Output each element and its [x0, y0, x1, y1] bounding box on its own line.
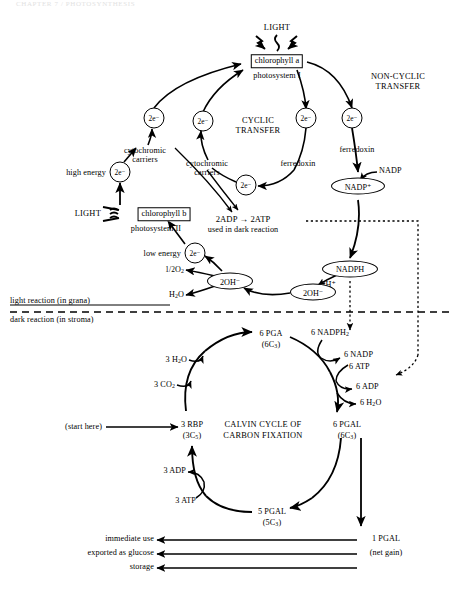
start-here-label: (start here) [65, 423, 102, 432]
rbp-formula: (3C5) [183, 432, 201, 441]
electron-circle-cyclic-mid-upper[interactable]: 2e⁻ [193, 111, 214, 132]
pgal1-net-gain-note: (net gain) [370, 549, 403, 558]
light-left-label: LIGHT [75, 210, 101, 219]
atp3-input-label: 3 ATP [175, 497, 196, 506]
nadp-output-label: 6 NADP [344, 351, 373, 360]
pgal6-formula: (6C3) [338, 432, 356, 441]
hydroxide-inner-oval[interactable]: 2OH⁻ [207, 273, 253, 290]
rbp-name: 3 RBP [181, 421, 203, 430]
pgal6-name: 6 PGAL [333, 421, 361, 430]
ferredoxin-noncyclic-label: ferredoxin [339, 146, 374, 155]
used-in-dark-reaction-label: used in dark reaction [208, 226, 279, 235]
atp-input-label: 6 ATP [349, 363, 370, 372]
nadph-oval[interactable]: NADPH [322, 261, 378, 278]
co2-sub: 2 [172, 383, 175, 389]
output-storage: storage [130, 563, 154, 572]
light-reaction-compartment-label: light reaction (in grana) [10, 297, 90, 306]
chlorophyll-b-box[interactable]: chlorophyll b [138, 207, 191, 221]
calvin-title-line1: CALVIN CYCLE OF [225, 421, 302, 430]
pga-name: 6 PGA [259, 330, 282, 339]
water-label: H2O [169, 291, 184, 300]
half-oxygen-sub: 2 [181, 268, 184, 274]
nadph2-text: 6 NADPH [311, 328, 346, 337]
cyclic-transfer-line1: CYCLIC [242, 117, 274, 126]
cyclic-transfer-line2: TRANSFER [236, 127, 281, 136]
pgal5-formula: (5C3) [263, 519, 281, 528]
output-immediate-use: immediate use [105, 535, 154, 544]
nadp-label: NADP [379, 167, 402, 176]
pgal5-formula-prefix: (5C [263, 518, 276, 527]
noncyclic-transfer-line1: NON-CYCLIC [371, 73, 425, 82]
h2o-tail: O [181, 355, 187, 364]
adp-atp-conversion: 2ADP → 2ATP [216, 215, 271, 224]
nadp-plus-oval[interactable]: NADP⁺ [331, 178, 385, 195]
pgal5-formula-suffix: ) [278, 518, 281, 527]
half-oxygen-label: 1/2O2 [165, 266, 184, 275]
photosystem-ii-label: photosystem II [131, 225, 181, 234]
hydroxide-outer-oval[interactable]: 2OH⁻ [290, 284, 336, 301]
photosynthesis-diagram: CHAPTER 7 / PHOTOSYNTHESIS [0, 0, 454, 599]
low-energy-label: low energy [144, 250, 181, 259]
pgal1-name: 1 PGAL [372, 535, 400, 544]
water-o: O [178, 290, 184, 299]
calvin-title-line2: CARBON FIXATION [223, 432, 302, 441]
pgal6-formula-prefix: (6C [338, 431, 351, 440]
adp-output-label: 6 ADP [356, 383, 379, 392]
h2o-output-label: 6 H2O [360, 399, 381, 408]
adp3-output-label: 3 ADP [163, 467, 186, 476]
pgal6-formula-suffix: ) [353, 431, 356, 440]
co2-input-label: 3 CO2 [154, 381, 175, 390]
output-exported-glucose: exported as glucose [88, 549, 154, 558]
nadph2-input-label: 6 NADPH2 [311, 329, 349, 338]
electron-circle-low-energy[interactable]: 2e⁻ [185, 243, 206, 264]
rbp-formula-prefix: (3C [183, 431, 196, 440]
h2o-out-text: 6 H [360, 398, 372, 407]
chlorophyll-a-box[interactable]: chlorophyll a [251, 54, 303, 68]
electron-circle-cyclic-bottom[interactable]: 2e⁻ [236, 175, 257, 196]
noncyclic-transfer-line2: TRANSFER [376, 83, 421, 92]
pga-formula: (6C3) [262, 341, 280, 350]
nadph2-sub: 2 [346, 331, 349, 337]
h2o-input-label: 3 H2O [166, 356, 187, 365]
high-energy-label: high energy [66, 169, 106, 178]
light-top-label: LIGHT [264, 24, 290, 33]
pga-formula-suffix: ) [277, 340, 280, 349]
electron-circle-cyclic-right[interactable]: 2e⁻ [296, 108, 317, 129]
ferredoxin-cyclic-label: ferredoxin [280, 160, 315, 169]
dark-reaction-compartment-label: dark reaction (in stroma) [10, 316, 94, 325]
electron-circle-cyclic-left-upper[interactable]: 2e⁻ [144, 108, 165, 129]
pgal5-name: 5 PGAL [258, 508, 286, 517]
h2o-text: 3 H [166, 355, 178, 364]
rbp-formula-suffix: ) [198, 431, 201, 440]
electron-circle-high-energy[interactable]: 2e⁻ [110, 162, 131, 183]
electron-circle-noncyclic-right[interactable]: 2e⁻ [342, 108, 363, 129]
co2-text: 3 CO [154, 380, 172, 389]
cytochromic-carriers-mid-line2: carriers [194, 169, 219, 178]
pga-formula-prefix: (6C [262, 340, 275, 349]
photosystem-i-label: photosystem I [253, 72, 300, 81]
cytochromic-carriers-upper-line2: carriers [132, 156, 157, 165]
h2o-out-tail: O [375, 398, 381, 407]
